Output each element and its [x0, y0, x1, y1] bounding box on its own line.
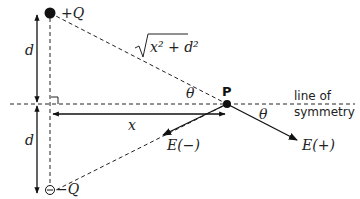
symmetry-label-line1: line of [294, 89, 332, 103]
e-minus-vector [163, 104, 227, 135]
point-p-label: P [222, 84, 232, 99]
e-minus-label: E(−) [166, 137, 200, 153]
right-angle-icon [51, 97, 58, 104]
negative-charge-label: −Q [56, 181, 80, 197]
positive-charge-label: +Q [61, 5, 85, 21]
symmetry-label-line2: symmetry [294, 105, 355, 119]
upper-d-label: d [25, 42, 34, 58]
positive-charge [45, 8, 56, 19]
x-label: x [128, 117, 136, 133]
svg-text:x² + d²: x² + d² [150, 39, 199, 55]
upper-hypotenuse [50, 13, 227, 104]
e-plus-label: E(+) [301, 137, 335, 153]
lower-d-label: d [25, 132, 34, 148]
dipole-field-diagram: d d x x² + d² +Q −Q θ θ P E(+) E(−) line… [0, 0, 360, 199]
hypotenuse-length-label: x² + d² [135, 34, 199, 57]
theta-upper-label: θ [186, 85, 195, 101]
theta-lower-label: θ [259, 106, 268, 122]
